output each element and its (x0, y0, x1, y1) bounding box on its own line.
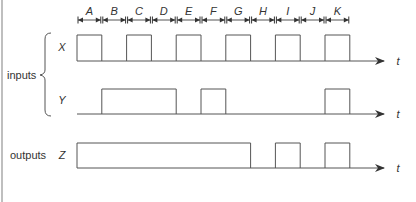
signal-y: Yt (58, 89, 400, 120)
signal-label: Z (58, 149, 67, 161)
interval-label: F (210, 5, 218, 17)
interval-label: B (111, 5, 118, 17)
pulse-high (226, 35, 251, 61)
signal-z: Zt (58, 143, 401, 174)
interval-label: D (160, 5, 168, 17)
interval-G: G (227, 5, 250, 24)
interval-A: A (78, 5, 101, 24)
interval-H: H (252, 5, 275, 24)
inputs-bracket (40, 33, 51, 116)
interval-label: A (85, 5, 93, 17)
pulse-high (77, 143, 251, 168)
interval-label: I (286, 5, 289, 17)
axis-t-label: t (396, 55, 400, 67)
pulse-high (127, 35, 152, 61)
signal-label: X (57, 41, 66, 53)
interval-K: K (326, 5, 349, 24)
pulse-high (176, 35, 201, 61)
interval-label: G (234, 5, 243, 17)
signals: XtYtZt (57, 35, 400, 174)
interval-label: E (185, 5, 193, 17)
interval-label: J (309, 5, 316, 17)
interval-label: C (135, 5, 143, 17)
pulse-high (325, 143, 350, 168)
signal-x: Xt (57, 35, 400, 67)
interval-J: J (301, 5, 324, 24)
inputs-label: inputs (7, 69, 37, 81)
interval-B: B (103, 5, 126, 24)
pulse-high (325, 35, 350, 61)
interval-E: E (177, 5, 200, 24)
interval-F: F (202, 5, 225, 24)
interval-I: I (276, 5, 299, 24)
interval-D: D (152, 5, 175, 24)
pulse-high (275, 35, 300, 61)
pulse-high (325, 89, 350, 114)
signal-label: Y (58, 94, 66, 106)
pulse-high (77, 35, 102, 61)
pulse-high (102, 89, 176, 114)
pulse-high (201, 89, 226, 114)
timing-diagram: ABCDEFGHIJK XtYtZt inputs outputs (0, 0, 416, 202)
interval-label: K (334, 5, 342, 17)
interval-markers: ABCDEFGHIJK (78, 5, 349, 24)
pulse-high (275, 143, 300, 168)
interval-label: H (259, 5, 267, 17)
axis-t-label: t (396, 108, 400, 120)
outputs-label: outputs (10, 149, 47, 161)
axis-t-label: t (396, 162, 400, 174)
interval-C: C (128, 5, 151, 24)
